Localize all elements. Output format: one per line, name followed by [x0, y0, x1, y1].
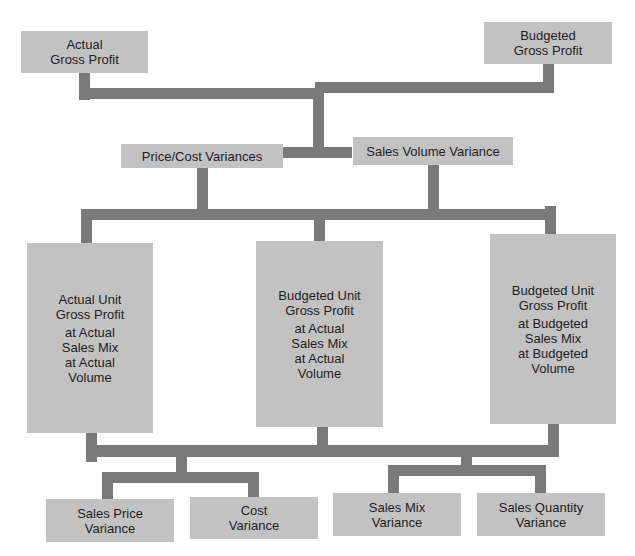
node-label-line: Cost [241, 503, 268, 518]
node-cost-variance: Cost Variance [190, 497, 318, 539]
node-label: Sales Volume Variance [366, 144, 499, 159]
node-label-line: Sales Mix [291, 336, 347, 351]
node-label-line: Budgeted [520, 28, 576, 43]
node-label-line: Sales Mix [62, 340, 118, 355]
node-label-line: Gross Profit [50, 52, 119, 67]
node-budgeted-unit-budgeted-mix: Budgeted Unit Gross Profit at Budgeted S… [490, 234, 616, 424]
connector-cost-up [248, 472, 259, 498]
node-label-line: at Actual [65, 355, 115, 370]
connector-sales-volume-down [428, 164, 439, 214]
connector-mid-horizontal [282, 147, 352, 158]
connector-bottom-horizontal [86, 445, 559, 457]
node-label-line: Volume [68, 370, 111, 385]
connector-budgeted-gp-down [543, 62, 554, 90]
node-sales-mix-variance: Sales Mix Variance [333, 493, 461, 536]
node-label-line: Gross Profit [519, 298, 588, 313]
connector-center-vertical [313, 88, 324, 156]
node-actual-unit-gross-profit: Actual Unit Gross Profit at Actual Sales… [27, 243, 153, 433]
node-label-line: Variance [229, 518, 279, 533]
node-label: Price/Cost Variances [142, 149, 262, 164]
node-label-line: at Budgeted [518, 316, 588, 331]
node-label-line: Gross Profit [514, 43, 583, 58]
node-label-line: Variance [516, 515, 566, 530]
node-budgeted-unit-actual-mix: Budgeted Unit Gross Profit at Actual Sal… [256, 241, 383, 427]
connector-left-branch-stem [176, 455, 187, 473]
node-sales-volume-variance: Sales Volume Variance [353, 137, 513, 165]
connector-sales-price-up [102, 472, 113, 500]
node-label-line: Budgeted Unit [278, 288, 360, 303]
node-label-line: Gross Profit [285, 303, 354, 318]
connector-sales-quantity-up [535, 465, 546, 495]
connector-top-horizontal-right [315, 82, 554, 93]
node-label-line: Sales Mix [369, 500, 425, 515]
node-label-line: at Actual [65, 325, 115, 340]
node-label-line: Budgeted Unit [512, 283, 594, 298]
node-sales-quantity-variance: Sales Quantity Variance [477, 493, 605, 536]
node-label-line: Volume [531, 361, 574, 376]
connector-box2-up [314, 209, 325, 241]
node-actual-gross-profit: Actual Gross Profit [21, 31, 148, 73]
connector-top-horizontal [79, 88, 321, 99]
node-label-line: Actual [66, 37, 102, 52]
node-label-line: Sales Quantity [499, 500, 584, 515]
node-budgeted-gross-profit: Budgeted Gross Profit [484, 22, 612, 64]
connector-box3-up [545, 206, 556, 236]
node-label-line: at Actual [295, 321, 345, 336]
node-label-line: at Budgeted [518, 346, 588, 361]
node-label-line: Gross Profit [56, 307, 125, 322]
connector-left-branch-horizontal [102, 472, 259, 483]
connector-box1-up [81, 209, 92, 245]
node-price-cost-variances: Price/Cost Variances [121, 144, 283, 168]
node-label-line: Actual Unit [59, 292, 122, 307]
node-label-line: Variance [372, 515, 422, 530]
node-label-line: Variance [85, 521, 135, 536]
node-label-line: Sales Mix [525, 331, 581, 346]
node-label-line: Volume [298, 366, 341, 381]
node-label-line: Sales Price [77, 506, 143, 521]
connector-right-branch-horizontal [388, 465, 546, 476]
node-sales-price-variance: Sales Price Variance [46, 499, 174, 542]
node-label-line: at Actual [295, 351, 345, 366]
